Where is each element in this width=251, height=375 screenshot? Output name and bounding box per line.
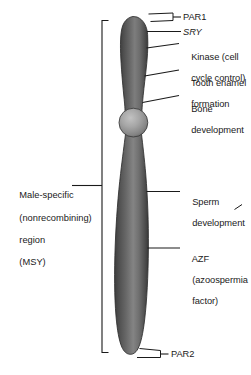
label-msy-line4: (MSY) [19,257,45,267]
par2-bracket [137,349,161,358]
chromosome-long-arm [115,134,149,354]
label-kinase-line1: Kinase (cell [191,52,238,62]
bone-leader-line [143,96,180,103]
label-azf-line1: AZF [192,254,209,264]
label-tooth-enamel-line1: Tooth enamel [191,78,246,88]
label-azf-line2: (azoospermia [192,275,248,285]
msy-bracket [102,21,109,353]
centromere [119,108,148,137]
label-par1: PAR1 [183,12,206,23]
y-chromosome-figure: PAR1 SRY Kinase (cell cycle control) Too… [0,0,251,375]
kinase-leader-line [147,44,180,49]
par1-bracket [149,13,174,22]
label-azf: AZF (azoospermia factor) [182,243,248,317]
label-msy-line2: (nonrecombining) [19,213,91,223]
label-azf-line3: factor) [192,296,218,306]
label-sperm-development: Sperm development [182,187,245,240]
label-bone-development: Bone development [181,93,244,146]
label-msy-line3: region [19,235,45,245]
label-par2: PAR2 [171,349,194,360]
label-bone-line2: development [191,125,244,135]
label-sperm-line1: Sperm [192,197,219,207]
label-sry: SRY [183,27,202,38]
label-msy-line1: Male-specific [19,190,73,200]
tooth-enamel-leader-line [145,70,180,76]
label-msy-region: Male-specific (nonrecombining) region (M… [9,179,92,280]
label-bone-line1: Bone [191,104,213,114]
label-sperm-line2: development [192,218,245,228]
chromosome-short-arm [120,17,147,112]
